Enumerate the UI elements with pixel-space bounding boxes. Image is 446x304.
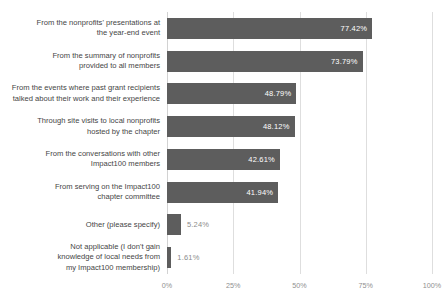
bar[interactable]: 48.12%	[167, 116, 295, 137]
category-label: From the events where past grant recipie…	[0, 83, 160, 104]
category-label: Other (please specify)	[0, 220, 160, 230]
category-label: From the summary of nonprofits provided …	[0, 51, 160, 72]
category-axis-labels: From the nonprofits' presentations at th…	[0, 12, 160, 274]
category-label: From the conversations with other Impact…	[0, 149, 160, 170]
bar[interactable]	[167, 247, 171, 268]
horizontal-bar-chart: From the nonprofits' presentations at th…	[0, 0, 446, 304]
category-label: Through site visits to local nonprofits …	[0, 116, 160, 137]
bar-value-label: 5.24%	[181, 214, 209, 235]
bar-row: 73.79%	[167, 51, 432, 72]
bar-value-label: 42.61%	[248, 149, 280, 170]
x-axis-tick-labels: 0%25%50%75%100%	[167, 281, 432, 295]
bar[interactable]: 41.94%	[167, 182, 278, 203]
tick-label: 25%	[226, 281, 240, 290]
category-label: From serving on the Impact100 chapter co…	[0, 182, 160, 203]
bar[interactable]: 42.61%	[167, 149, 280, 170]
gridline-100pct	[432, 12, 433, 274]
bar-row: 48.79%	[167, 83, 432, 104]
plot-area: 77.42%73.79%48.79%48.12%42.61%41.94%5.24…	[167, 12, 432, 274]
bar[interactable]: 48.79%	[167, 83, 296, 104]
bar-row: 48.12%	[167, 116, 432, 137]
bar-row: 1.61%	[167, 247, 432, 268]
bar-row: 77.42%	[167, 18, 432, 39]
bar[interactable]: 73.79%	[167, 51, 363, 72]
bar-value-label: 48.79%	[265, 83, 297, 104]
tick-label: 50%	[292, 281, 306, 290]
bar-value-label: 73.79%	[331, 51, 363, 72]
bar-value-label: 77.42%	[341, 18, 373, 39]
bar-row: 5.24%	[167, 214, 432, 235]
category-label: Not applicable (I don't gain knowledge o…	[0, 242, 160, 273]
tick-label: 0%	[162, 281, 172, 290]
tick-label: 100%	[423, 281, 441, 290]
bar-value-label: 1.61%	[171, 247, 199, 268]
bar-row: 42.61%	[167, 149, 432, 170]
bar-value-label: 41.94%	[247, 182, 279, 203]
bar-rows: 77.42%73.79%48.79%48.12%42.61%41.94%5.24…	[167, 12, 432, 274]
bar-row: 41.94%	[167, 182, 432, 203]
bar[interactable]: 77.42%	[167, 18, 372, 39]
tick-label: 75%	[359, 281, 373, 290]
bar-value-label: 48.12%	[263, 116, 295, 137]
bar[interactable]	[167, 214, 181, 235]
category-label: From the nonprofits' presentations at th…	[0, 18, 160, 39]
